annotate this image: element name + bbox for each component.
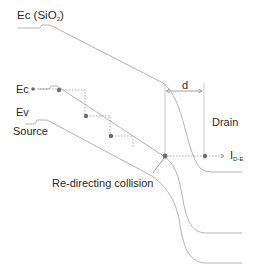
collision-label: Re-directing collision (52, 178, 154, 189)
d-label: d (182, 80, 188, 91)
ev-band-line (25, 120, 242, 263)
collision-pointer-line (153, 158, 164, 173)
drain-label: Drain (212, 117, 238, 128)
ec-band-line (38, 86, 242, 233)
electron-path (34, 89, 224, 156)
ec-label: Ec (16, 84, 29, 95)
ec-oxide-label: Ec (SiO2) (17, 10, 64, 22)
band-diagram-canvas (0, 0, 261, 276)
ev-label: Ev (16, 107, 29, 118)
electron-dots (31, 87, 207, 158)
source-label: Source (13, 126, 48, 137)
ec-oxide-band-line (18, 25, 242, 172)
current-label: ID-E (230, 150, 243, 162)
